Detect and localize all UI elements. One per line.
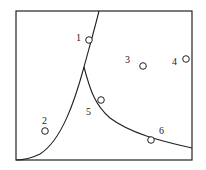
point-label-1: 1 xyxy=(76,32,81,43)
lower-boundary-curve xyxy=(84,67,192,148)
point-label-6: 6 xyxy=(159,125,164,136)
point-marker-3 xyxy=(140,63,147,70)
point-marker-5 xyxy=(98,97,105,104)
point-marker-2 xyxy=(42,128,49,135)
diagram-canvas: 123456 xyxy=(0,0,206,170)
point-marker-6 xyxy=(148,137,155,144)
point-label-2: 2 xyxy=(42,115,47,126)
point-label-3: 3 xyxy=(125,54,130,65)
diagram-frame xyxy=(16,11,192,160)
point-marker-4 xyxy=(183,56,190,63)
point-label-4: 4 xyxy=(172,56,177,67)
point-marker-1 xyxy=(86,37,93,44)
point-label-5: 5 xyxy=(86,106,91,117)
upper-boundary-curve xyxy=(16,11,99,160)
